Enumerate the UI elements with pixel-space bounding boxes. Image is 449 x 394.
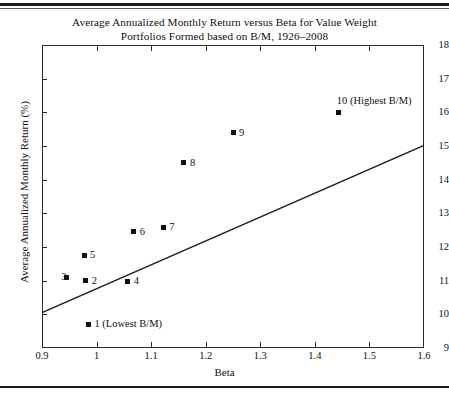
data-point-marker — [181, 160, 186, 165]
data-point-marker — [336, 110, 341, 115]
data-point-marker — [86, 322, 91, 327]
data-point-marker — [125, 279, 130, 284]
data-point-label: 9 — [239, 127, 244, 138]
regression-line — [0, 10, 449, 386]
data-point-label: 2 — [92, 275, 97, 286]
data-point-label: 10 (Highest B/M) — [337, 95, 412, 106]
data-point-marker — [131, 229, 136, 234]
x-axis-label: Beta — [0, 366, 449, 378]
data-point-label: 4 — [134, 275, 139, 286]
data-point-marker — [83, 278, 88, 283]
page-rule-top-thin — [0, 8, 449, 9]
page-rule-top — [0, 3, 449, 6]
y-axis-label: Average Annualized Monthly Return (%) — [18, 72, 30, 312]
data-point-label: 5 — [90, 249, 95, 260]
data-point-label: 7 — [169, 221, 174, 232]
data-point-marker — [161, 225, 166, 230]
chart-figure: Average Annualized Monthly Return versus… — [0, 10, 449, 386]
data-point-label: 1 (Lowest B/M) — [94, 318, 162, 329]
data-point-label: 6 — [140, 226, 145, 237]
data-point-marker — [231, 130, 236, 135]
data-point-marker — [82, 253, 87, 258]
data-point-label: 8 — [190, 157, 195, 168]
page-rule-bottom — [0, 386, 449, 388]
data-point-label: 3 — [61, 271, 66, 282]
